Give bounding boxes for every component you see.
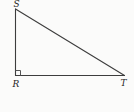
vertex-label-s: S <box>13 0 19 9</box>
right-angle-marker <box>16 71 21 76</box>
vertex-label-r: R <box>12 79 20 89</box>
triangle-figure: S R T <box>0 0 134 112</box>
vertex-label-t: T <box>120 78 127 88</box>
triangle-canvas: S R T <box>0 0 134 112</box>
side-st-line <box>16 9 125 76</box>
